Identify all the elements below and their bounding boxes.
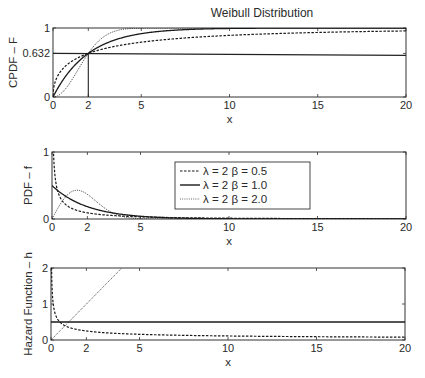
x-tick-label: 0 xyxy=(48,342,54,354)
y-tick-label: 0 xyxy=(42,334,48,346)
series-beta-1 xyxy=(53,28,406,97)
y-tick-label: 0 xyxy=(43,213,49,225)
x-tick-label: 2 xyxy=(85,99,91,111)
x-tick-label: 15 xyxy=(310,342,322,354)
y-tick-label: 1 xyxy=(42,298,48,310)
x-axis-label: x xyxy=(226,235,232,247)
plot-frame xyxy=(51,268,405,340)
x-axis-label: x xyxy=(227,113,233,125)
y-axis-label: Hazard Function – h xyxy=(22,252,34,356)
x-tick-label: 10 xyxy=(223,221,235,233)
legend-label-beta-2-0: λ = 2 β = 2.0 xyxy=(203,193,267,205)
x-tick-label: 2 xyxy=(83,342,89,354)
series-beta-0-5 xyxy=(53,31,406,95)
y-axis-label: PDF – f xyxy=(22,165,34,205)
x-tick-label: 15 xyxy=(311,221,323,233)
x-tick-label: 5 xyxy=(136,342,142,354)
cdf-panel: 02510152000.6321xCPDF – F xyxy=(7,22,412,125)
y-axis-label: CPDF – F xyxy=(7,37,19,88)
reference-hline xyxy=(53,53,406,55)
x-tick-label: 0 xyxy=(49,221,55,233)
weibull-chart: Weibull Distribution 02510152000.6321xCP… xyxy=(0,0,425,378)
series-beta-2 xyxy=(53,28,406,97)
series-beta-2 xyxy=(51,232,405,340)
x-tick-label: 20 xyxy=(399,342,411,354)
x-tick-label: 2 xyxy=(84,221,90,233)
y-tick-label: 1 xyxy=(43,146,49,158)
x-tick-label: 10 xyxy=(222,342,234,354)
x-tick-label: 20 xyxy=(400,99,412,111)
x-axis-label: x xyxy=(225,356,231,368)
plot-frame xyxy=(53,28,406,97)
x-tick-label: 15 xyxy=(312,99,324,111)
y-tick-label: 0 xyxy=(44,91,50,103)
legend-label-beta-1-0: λ = 2 β = 1.0 xyxy=(203,179,267,191)
y-tick-label: 1 xyxy=(44,22,50,34)
y-tick-label: 0.632 xyxy=(22,47,50,59)
y-tick-label: 2 xyxy=(42,262,48,274)
x-tick-label: 5 xyxy=(138,99,144,111)
x-tick-label: 20 xyxy=(400,221,412,233)
legend-label-beta-0-5: λ = 2 β = 0.5 xyxy=(203,165,267,177)
x-tick-label: 5 xyxy=(137,221,143,233)
x-tick-label: 10 xyxy=(223,99,235,111)
hazard-panel: 025101520012xHazard Function – h xyxy=(22,232,411,368)
chart-title: Weibull Distribution xyxy=(211,6,314,20)
x-tick-label: 0 xyxy=(50,99,56,111)
legend: λ = 2 β = 0.5 λ = 2 β = 1.0 λ = 2 β = 2.… xyxy=(175,162,310,209)
